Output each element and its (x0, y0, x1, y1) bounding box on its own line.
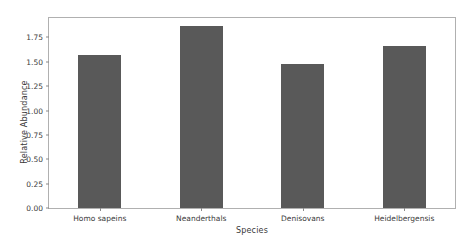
y-tick-label: 1.75 (26, 33, 49, 42)
bar (281, 64, 324, 208)
x-tick-label: Heidelbergensis (374, 214, 434, 223)
bar-chart-figure: Relative Abundance 0.000.250.500.751.001… (0, 0, 475, 244)
y-tick-label: 1.00 (26, 106, 49, 115)
x-tick-mark (404, 208, 405, 211)
bar (78, 55, 121, 208)
y-tick-label: 0.50 (26, 155, 49, 164)
x-tick-mark (201, 208, 202, 211)
y-tick-label: 0.75 (26, 130, 49, 139)
y-tick-label: 1.50 (26, 57, 49, 66)
y-tick-label: 1.25 (26, 82, 49, 91)
plot-area: 0.000.250.500.751.001.251.501.75Homo sap… (48, 17, 456, 209)
bar (180, 26, 223, 208)
x-axis-title: Species (48, 226, 456, 235)
bar (383, 46, 426, 208)
x-tick-label: Homo sapeins (73, 214, 126, 223)
y-tick-label: 0.00 (26, 204, 49, 213)
x-tick-label: Denisovans (281, 214, 324, 223)
y-tick-label: 0.25 (26, 179, 49, 188)
x-tick-label: Neanderthals (176, 214, 226, 223)
x-tick-mark (303, 208, 304, 211)
x-tick-mark (100, 208, 101, 211)
